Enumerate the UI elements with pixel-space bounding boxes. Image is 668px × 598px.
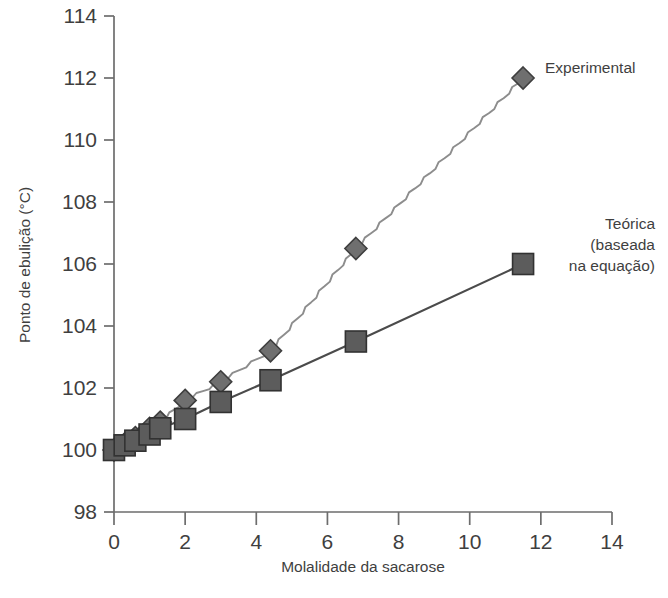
- y-tick-label: 114: [64, 4, 98, 27]
- data-point-teorica: [175, 409, 196, 430]
- data-point-teorica: [513, 254, 534, 275]
- series-lines-group: [114, 78, 523, 450]
- series-annotation-teorica-line: (baseada: [590, 236, 655, 253]
- data-point-teorica: [260, 370, 281, 391]
- data-point-teorica: [150, 418, 171, 439]
- y-axis-title: Ponto de ebulição (°C): [16, 187, 33, 343]
- series-line-experimental: [114, 78, 523, 450]
- boiling-point-vs-molality-chart: 98100102104106108110112114 02468101214 P…: [0, 0, 668, 598]
- series-annotations-group: ExperimentalTeórica(baseadana equação): [545, 59, 655, 274]
- x-tick-label: 0: [108, 530, 120, 553]
- data-point-experimental: [260, 340, 282, 362]
- x-axis-title: Molalidade da sacarose: [281, 558, 445, 575]
- y-tick-label: 98: [74, 500, 97, 523]
- y-tick-label: 106: [62, 252, 97, 275]
- y-tick-label: 112: [64, 66, 97, 89]
- series-markers-group: [103, 67, 534, 461]
- x-tick-label: 2: [179, 530, 191, 553]
- y-tick-label: 108: [62, 190, 97, 213]
- y-tick-label: 104: [62, 314, 97, 337]
- data-point-teorica: [210, 391, 231, 412]
- x-tick-label: 14: [600, 530, 624, 553]
- x-tick-label: 8: [393, 530, 405, 553]
- series-annotation-experimental: Experimental: [545, 59, 635, 76]
- y-tick-label: 102: [62, 376, 97, 399]
- x-tick-label: 6: [322, 530, 334, 553]
- series-annotation-teorica-line: Teórica: [605, 215, 655, 232]
- x-tick-label: 4: [250, 530, 262, 553]
- data-point-experimental: [210, 371, 232, 393]
- series-annotation-teorica-line: na equação): [569, 257, 655, 274]
- y-tick-label: 100: [62, 438, 97, 461]
- y-tick-label: 110: [64, 128, 97, 151]
- x-tick-label: 12: [529, 530, 552, 553]
- axes-group: [114, 16, 612, 512]
- x-axis-ticks: 02468101214: [108, 512, 624, 553]
- chart-container: 98100102104106108110112114 02468101214 P…: [0, 0, 668, 598]
- data-point-teorica: [345, 331, 366, 352]
- x-tick-label: 10: [458, 530, 481, 553]
